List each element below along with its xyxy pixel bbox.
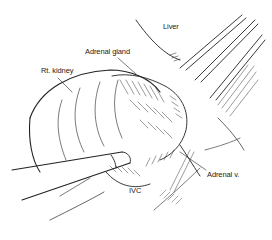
leader-adrenal-vein: [180, 152, 206, 170]
adrenal-gland-outline: [112, 75, 187, 160]
label-liver: Liver: [163, 22, 179, 31]
instrument-shaft-top: [12, 152, 122, 170]
label-rt-kidney: Rt. kidney: [41, 66, 73, 75]
anatomical-illustration: Liver Adrenal gland Rt. kidney IVC Adren…: [0, 0, 272, 240]
ivc-outline: [106, 172, 150, 187]
label-ivc: IVC: [129, 186, 141, 195]
line-drawing: [0, 0, 272, 240]
leader-rt-kidney: [58, 78, 72, 92]
label-adrenal-vein: Adrenal v.: [207, 170, 239, 179]
label-adrenal-gland: Adrenal gland: [85, 47, 130, 56]
